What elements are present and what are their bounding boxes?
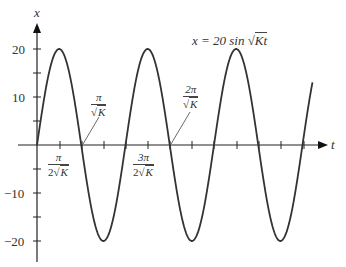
sqrt-icon: √ [248,33,255,48]
y-axis-label: x [34,6,40,19]
chart-canvas [0,0,346,267]
fraction-numerator: 3π [133,152,154,165]
tick-label-pi-over-2rootK: π 2√K [48,152,69,178]
y-tick-label-20: 20 [12,43,25,56]
fraction-denominator: √K [91,105,106,118]
callout-line-2pi [171,112,190,144]
fraction-denominator: 2√K [133,165,154,178]
y-axis-arrow-icon [33,23,41,33]
fraction-denominator: 2√K [48,165,69,178]
equation-lhs: x = 20 sin [192,33,248,48]
tick-label-3pi-over-2rootK: 3π 2√K [133,152,154,178]
t-axis-label: t [331,138,335,151]
callout-label-pi-over-rootK: π √K [91,92,106,118]
fraction-denominator: √K [183,97,198,110]
equation-label: x = 20 sin √Kt [192,34,267,47]
callout-line-pi [83,117,99,144]
fraction-numerator: 2π [183,84,198,97]
fraction-numerator: π [48,152,69,165]
callout-label-2pi-over-rootK: 2π √K [183,84,198,110]
y-tick-label-10: 10 [12,91,25,104]
y-tick-label-neg20: −20 [4,235,24,248]
equation-radicand: Kt [255,32,267,48]
t-axis-arrow-icon [318,141,328,149]
fraction-numerator: π [91,92,106,105]
y-tick-label-neg10: −10 [4,187,24,200]
